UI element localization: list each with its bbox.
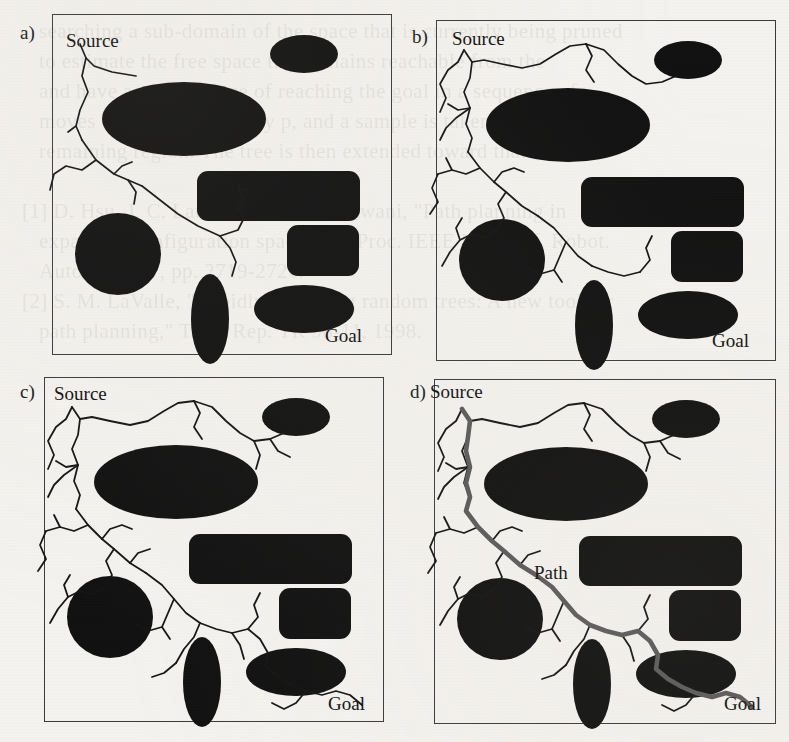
tree-edge xyxy=(644,443,650,471)
obstacle-vertical-ellipse xyxy=(575,280,613,370)
obstacle-wide-rectangle xyxy=(579,536,742,586)
tree-edge xyxy=(220,236,236,276)
obstacle-small-rectangle xyxy=(287,225,359,276)
tree-edge xyxy=(200,623,248,633)
tree-edge xyxy=(446,463,468,469)
tree-edge xyxy=(38,531,46,571)
tree-edge xyxy=(50,160,96,190)
panel-d: d) Source Path Goal xyxy=(394,371,789,742)
tree-edge xyxy=(542,665,566,679)
panel-c-source-label: Source xyxy=(54,383,107,405)
tree-edge xyxy=(428,533,436,573)
panel-d-source-label: Source xyxy=(430,381,483,403)
tree-edge xyxy=(76,58,88,140)
tree-edge xyxy=(254,441,260,469)
tree-edge xyxy=(538,216,592,266)
tree-edge xyxy=(552,601,564,641)
tree-edge xyxy=(456,218,462,240)
tree-edge xyxy=(466,511,536,575)
obstacle-wide-rectangle xyxy=(197,171,360,221)
tree-edge xyxy=(468,152,538,216)
tree-edge xyxy=(48,407,72,469)
tree-edge xyxy=(114,162,132,174)
panel-b: b) Source Goal xyxy=(394,0,789,371)
obstacle-vertical-ellipse xyxy=(191,274,229,364)
tree-edge xyxy=(554,242,566,282)
figure-page: searching a sub-domain of the space that… xyxy=(0,0,789,742)
tree-edge xyxy=(76,509,146,573)
tree-edge xyxy=(194,401,202,439)
panel-b-map xyxy=(394,0,789,371)
obstacle-wide-rectangle xyxy=(189,534,352,584)
tree-edge xyxy=(102,525,132,539)
tree-edge xyxy=(54,515,60,527)
tree-edge xyxy=(462,403,584,427)
tree-edge xyxy=(660,441,680,459)
obstacle-left-circle xyxy=(459,219,545,301)
obstacle-bottom-right-ellipse xyxy=(246,648,346,696)
obstacles-a xyxy=(75,35,360,364)
obstacle-small-rectangle xyxy=(279,588,351,639)
tree-edge xyxy=(492,527,522,541)
obstacle-small-rectangle xyxy=(671,231,743,282)
panel-a-source-label: Source xyxy=(66,30,119,52)
tree-edge xyxy=(638,595,650,631)
tree-edge xyxy=(584,403,592,441)
panel-c-goal-label: Goal xyxy=(328,693,365,715)
tree-edge xyxy=(454,577,460,599)
tree-edge xyxy=(464,62,472,152)
tree-edge xyxy=(68,126,76,132)
tree-edge xyxy=(438,409,462,471)
obstacle-top-right-ellipse xyxy=(270,35,338,73)
tree-edge xyxy=(448,104,470,110)
tree-edge xyxy=(248,593,260,629)
panel-a: a) Source Goal xyxy=(0,0,394,371)
tree-edge xyxy=(436,527,478,533)
tree-edge xyxy=(586,44,594,82)
obstacles-c xyxy=(67,398,352,727)
obstacle-vertical-ellipse xyxy=(573,639,611,729)
tree-edge xyxy=(146,573,200,623)
tree-edge xyxy=(130,549,150,563)
obstacle-left-circle xyxy=(457,578,543,660)
tree-edge xyxy=(446,158,452,170)
tree-edge xyxy=(430,174,438,214)
tree-edge xyxy=(72,419,80,509)
tree-edge xyxy=(622,635,634,661)
tree-edge xyxy=(232,633,244,659)
panel-d-goal-label: Goal xyxy=(724,693,761,715)
obstacles-d xyxy=(457,400,742,729)
tree-edge xyxy=(46,525,88,531)
obstacle-vertical-ellipse xyxy=(183,637,221,727)
panel-d-map xyxy=(394,371,789,742)
panel-a-map xyxy=(0,0,394,371)
tree-edge xyxy=(444,517,450,529)
panel-b-goal-label: Goal xyxy=(712,330,749,352)
panel-c-map xyxy=(0,371,394,742)
obstacle-large-ellipse xyxy=(484,447,648,521)
tree-edge xyxy=(56,461,78,467)
obstacle-left-circle xyxy=(67,576,153,658)
tree-edge xyxy=(64,575,70,597)
tree-edge xyxy=(494,168,524,182)
obstacle-left-circle xyxy=(75,213,161,295)
panel-a-goal-label: Goal xyxy=(325,325,362,347)
tree-edge xyxy=(592,266,640,276)
tree-edge xyxy=(152,663,176,677)
obstacle-top-right-ellipse xyxy=(652,400,720,438)
tree-edge xyxy=(438,168,480,174)
obstacle-top-right-ellipse xyxy=(262,398,330,436)
obstacle-top-right-ellipse xyxy=(654,41,722,79)
panel-d-path-label: Path xyxy=(534,562,568,584)
panel-c: c) Source Goal xyxy=(0,371,394,742)
obstacle-large-ellipse xyxy=(94,445,258,519)
obstacle-small-rectangle xyxy=(669,590,741,641)
obstacle-large-ellipse xyxy=(102,82,266,156)
obstacles-b xyxy=(459,41,744,370)
tree-edge xyxy=(270,439,290,457)
panel-b-source-label: Source xyxy=(452,28,505,50)
obstacle-large-ellipse xyxy=(486,88,650,162)
tree-edge xyxy=(440,50,464,112)
tree-edge xyxy=(640,236,652,272)
obstacle-wide-rectangle xyxy=(581,177,744,227)
